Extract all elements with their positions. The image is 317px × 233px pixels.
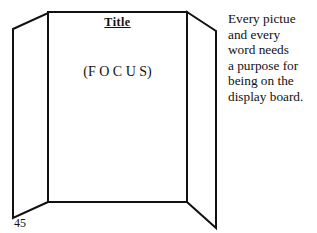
side-note-line: word needs <box>228 42 317 58</box>
board-title: Title <box>48 15 187 30</box>
side-note: Every pictue and every word needs a purp… <box>228 11 317 104</box>
side-note-line: a purpose for <box>228 58 317 74</box>
page-number: 45 <box>14 216 26 231</box>
side-note-line: being on the <box>228 73 317 89</box>
board-focus-label: (F O C U S) <box>48 64 187 80</box>
right-panel <box>187 12 216 228</box>
side-note-line: and every <box>228 27 317 43</box>
left-panel <box>13 13 48 218</box>
side-note-line: display board. <box>228 89 317 105</box>
side-note-line: Every pictue <box>228 11 317 27</box>
center-panel <box>48 12 187 202</box>
